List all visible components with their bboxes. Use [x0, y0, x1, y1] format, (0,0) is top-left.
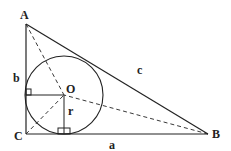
side-c-ab	[26, 24, 208, 134]
label-side-a: a	[109, 138, 115, 151]
label-radius: r	[68, 104, 74, 118]
triangle-abc	[26, 24, 208, 134]
label-side-c: c	[137, 63, 143, 77]
bisector-a	[26, 24, 64, 95]
label-o-center: O	[66, 82, 75, 96]
right-angle-marker-left	[26, 89, 31, 95]
label-b-vertex: B	[212, 127, 220, 141]
incircle-diagram: A B C O a b c r	[0, 0, 231, 151]
bisector-b	[64, 95, 208, 134]
label-side-b: b	[13, 71, 20, 85]
label-c-vertex: C	[14, 129, 23, 143]
label-a-vertex: A	[20, 8, 29, 22]
